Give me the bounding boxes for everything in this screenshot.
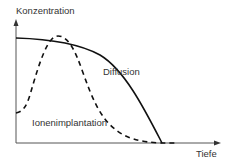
- x-axis: [16, 141, 221, 146]
- x-axis-label: Tiefe: [196, 149, 217, 159]
- profile-diagram: [0, 0, 232, 164]
- x-axis-arrow-icon: [214, 141, 221, 146]
- ionenimplantation-label: Ionenimplantation: [32, 118, 107, 128]
- y-axis-arrow-icon: [14, 19, 19, 26]
- y-axis-label: Konzentration: [16, 6, 75, 16]
- diffusion-label: Diffusion: [103, 67, 140, 77]
